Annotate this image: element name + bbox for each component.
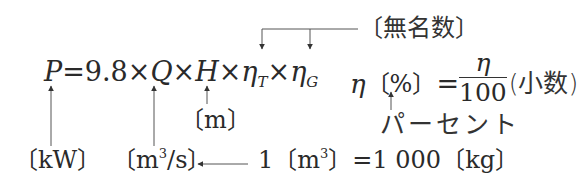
percent-unit: 〔%〕 xyxy=(366,72,437,96)
generator-subscript: G xyxy=(306,73,318,91)
efficiency-symbol: η xyxy=(350,71,366,97)
times-sign: × xyxy=(173,56,196,87)
equals-sign: = xyxy=(436,70,459,97)
turbine-efficiency-symbol: η xyxy=(241,56,257,87)
flow-unit-prefix: 〔m xyxy=(112,146,159,174)
percent-label: パーセント xyxy=(380,112,520,137)
power-formula: P=9.8×Q×H×ηT×ηG xyxy=(44,58,318,85)
efficiency-fraction: η 100 xyxy=(459,50,507,105)
turbine-subscript: T xyxy=(258,73,268,91)
fraction-numerator: η xyxy=(475,50,490,75)
flow-symbol: Q xyxy=(150,56,172,87)
times-sign: × xyxy=(128,56,151,87)
water-density-note: 1〔m3〕=1 000〔kg〕 xyxy=(258,148,519,172)
head-symbol: H xyxy=(195,56,219,87)
decimal-label: (小数) xyxy=(509,71,578,96)
times-sign: × xyxy=(268,56,291,87)
power-unit-label: 〔kW〕 xyxy=(14,148,101,172)
power-symbol: P xyxy=(44,56,62,87)
equals-sign: = xyxy=(62,56,85,87)
generator-efficiency-symbol: η xyxy=(290,56,306,87)
flow-unit-exponent: 3 xyxy=(159,146,167,161)
dimensionless-label: 〔無名数〕 xyxy=(359,16,479,40)
flow-unit-label: 〔m3/s〕 xyxy=(112,148,211,172)
density-prefix: 1〔m xyxy=(258,146,320,174)
flow-unit-suffix: /s〕 xyxy=(167,146,211,174)
fraction-denominator: 100 xyxy=(459,80,507,105)
density-suffix: 〕=1 000〔kg〕 xyxy=(328,146,519,174)
head-unit-label: 〔m〕 xyxy=(180,108,251,132)
efficiency-conversion: η 〔%〕 = η 100 (小数) xyxy=(350,50,578,105)
density-exponent: 3 xyxy=(320,146,328,161)
dimensionless-bracket xyxy=(262,29,358,49)
coefficient: 9.8 xyxy=(85,56,128,87)
times-sign: × xyxy=(219,56,242,87)
